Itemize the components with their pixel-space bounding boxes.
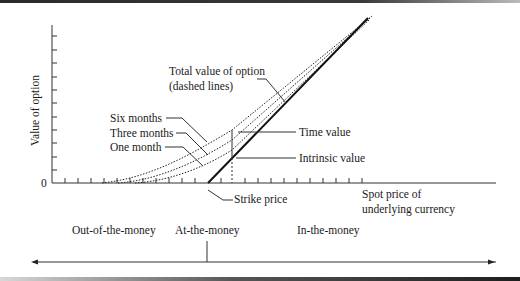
x-axis-label-line1: Spot price of (362, 188, 421, 201)
strike-price-label: Strike price (234, 193, 287, 206)
option-value-diagram (0, 0, 520, 281)
total-value-label-line1: Total value of option (169, 65, 265, 78)
time-value-label: Time value (299, 126, 351, 139)
y-axis-ticks (52, 36, 57, 170)
x-axis-label-line2: underlying currency (362, 203, 455, 216)
six-months-label: Six months (110, 112, 162, 125)
one-month-label: One month (110, 141, 161, 154)
bottom-border (0, 277, 520, 281)
three-months-label: Three months (110, 127, 174, 140)
three-months-leader (176, 133, 208, 155)
intrinsic-value-label: Intrinsic value (299, 152, 365, 165)
y-origin-label: 0 (41, 177, 47, 190)
arrow-left-icon (31, 260, 38, 265)
total-value-leader (257, 79, 286, 103)
strike-price-leader (208, 190, 233, 200)
arrow-right-icon (488, 260, 495, 265)
out-of-the-money-label: Out-of-the-money (72, 224, 156, 237)
total-value-label-line2: (dashed lines) (169, 80, 233, 93)
one-month-leader (165, 147, 203, 166)
y-axis-label: Value of option (29, 75, 41, 146)
at-the-money-label: At-the-money (175, 224, 240, 237)
in-the-money-label: In-the-money (297, 224, 360, 237)
